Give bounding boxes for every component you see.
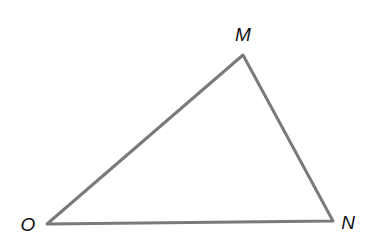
triangle-omn — [47, 55, 333, 224]
vertex-label-o: O — [21, 214, 36, 235]
triangle-diagram: M O N — [0, 0, 378, 242]
vertex-label-m: M — [235, 24, 251, 45]
vertex-label-n: N — [341, 212, 355, 233]
